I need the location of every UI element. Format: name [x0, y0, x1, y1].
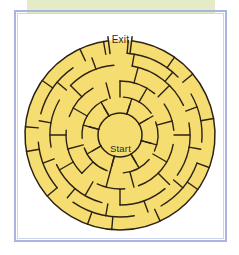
- page-canvas: Exit Start: [0, 0, 239, 255]
- start-label: Start: [17, 143, 224, 154]
- maze-container: Exit Start: [17, 13, 224, 239]
- circular-maze-figure: [17, 13, 224, 239]
- exit-label: Exit: [17, 34, 224, 45]
